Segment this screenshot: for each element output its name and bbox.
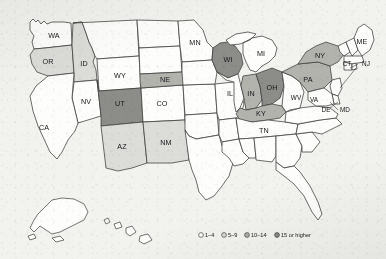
- state-label-OH: OH: [267, 83, 278, 92]
- legend-swatch-3: [275, 233, 280, 238]
- state-label-WI: WI: [224, 55, 233, 64]
- legend-item-1[interactable]: 5–9: [222, 232, 238, 238]
- state-label-WY: WY: [114, 71, 126, 80]
- state-label-IN: IN: [247, 89, 254, 98]
- state-label-NY: NY: [315, 51, 325, 60]
- state-label-CA: CA: [39, 123, 49, 132]
- state-KS[interactable]: [183, 84, 217, 115]
- legend: 1–4 5–9 10–14 15 or higher: [199, 232, 311, 238]
- legend-item-3[interactable]: 15 or higher: [275, 232, 311, 238]
- state-label-IL: IL: [227, 89, 233, 98]
- state-label-KY: KY: [256, 109, 266, 118]
- legend-label-0: 1–4: [205, 232, 214, 238]
- state-label-ME: ME: [357, 37, 368, 46]
- state-AL[interactable]: [254, 136, 276, 162]
- state-label-MI: MI: [257, 49, 265, 58]
- state-NJ[interactable]: [330, 78, 342, 96]
- state-label-TN: TN: [259, 126, 269, 135]
- us-choropleth-map: WA OR ID WY NV CA UT CO AZ NM MN NE WI I…: [0, 0, 386, 259]
- state-label-NE: NE: [160, 75, 170, 84]
- state-label-WA: WA: [48, 31, 60, 40]
- state-GA[interactable]: [276, 134, 302, 168]
- state-CA[interactable]: [30, 73, 78, 159]
- state-label-ID: ID: [80, 59, 87, 68]
- map-svg: WA OR ID WY NV CA UT CO AZ NM MN NE WI I…: [0, 0, 386, 259]
- state-label-AZ: AZ: [117, 142, 127, 151]
- state-label-NM: NM: [160, 138, 171, 147]
- state-label-DE: DE: [321, 106, 330, 113]
- state-IA[interactable]: [182, 60, 217, 85]
- state-label-CT: CT: [343, 60, 352, 67]
- state-SD[interactable]: [139, 46, 182, 74]
- legend-swatch-0: [199, 233, 204, 238]
- inset-hawaii[interactable]: [104, 218, 152, 244]
- inset-alaska[interactable]: [28, 198, 88, 242]
- legend-label-2: 10–14: [251, 232, 267, 238]
- legend-label-1: 5–9: [228, 232, 237, 238]
- state-label-VA: VA: [310, 96, 319, 103]
- state-label-WV: WV: [291, 94, 302, 101]
- legend-item-0[interactable]: 1–4: [199, 232, 215, 238]
- state-label-NJ: NJ: [362, 60, 370, 67]
- state-FL[interactable]: [276, 162, 322, 220]
- legend-item-2[interactable]: 10–14: [245, 232, 267, 238]
- state-OK[interactable]: [185, 113, 219, 139]
- state-ND[interactable]: [137, 20, 180, 48]
- state-label-OR: OR: [43, 57, 54, 66]
- state-label-MD: MD: [340, 106, 350, 113]
- state-label-NV: NV: [81, 97, 91, 106]
- leader-line-NJ: [340, 68, 356, 88]
- legend-swatch-1: [222, 233, 227, 238]
- state-label-MN: MN: [189, 38, 200, 47]
- state-AR[interactable]: [219, 118, 239, 142]
- state-label-CO: CO: [157, 99, 168, 108]
- state-label-PA: PA: [303, 75, 312, 84]
- state-label-UT: UT: [115, 99, 125, 108]
- legend-swatch-2: [245, 233, 250, 238]
- legend-label-3: 15 or higher: [281, 232, 311, 238]
